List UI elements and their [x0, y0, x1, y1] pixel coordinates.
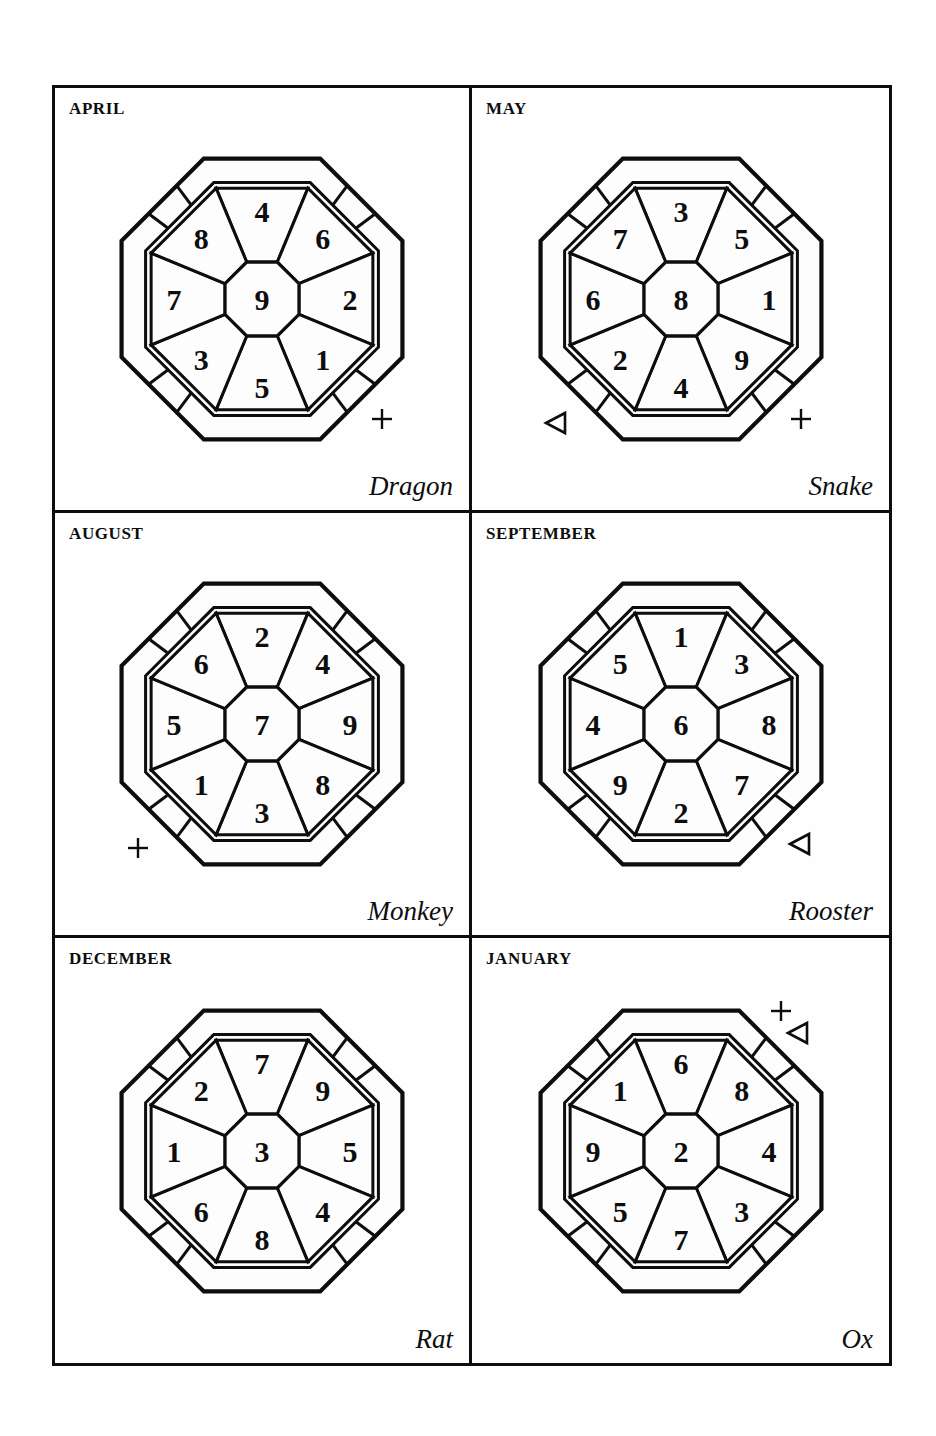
center-number: 2: [673, 1134, 688, 1167]
octagon-chart: 462153789: [102, 139, 422, 459]
sector-number-e: 9: [343, 708, 358, 741]
sector-number-ne: 3: [734, 647, 749, 680]
sector-number-s: 3: [255, 796, 270, 829]
sector-number-ne: 5: [734, 222, 749, 255]
animal-label: Dragon: [369, 471, 453, 502]
sector-number-n: 2: [255, 620, 270, 653]
sector-number-n: 7: [255, 1046, 270, 1079]
animal-label: Rooster: [789, 896, 873, 927]
sector-number-w: 5: [167, 708, 182, 741]
octagon-chart: 795486123: [102, 991, 422, 1311]
sector-number-s: 7: [673, 1222, 688, 1255]
sector-number-nw: 2: [194, 1073, 209, 1106]
sector-number-ne: 6: [315, 222, 330, 255]
octagon-chart: 249831567: [102, 564, 422, 884]
animal-label: Ox: [842, 1324, 873, 1355]
plus-marker: [372, 409, 392, 429]
sector-number-s: 8: [255, 1222, 270, 1255]
animal-label: Monkey: [368, 896, 453, 927]
sector-number-nw: 6: [194, 647, 209, 680]
sector-number-ne: 4: [315, 647, 330, 680]
panel-april-dragon: APRIL462153789Dragon: [55, 88, 472, 513]
plus-marker: [128, 838, 148, 858]
center-number: 8: [673, 283, 688, 316]
sector-number-sw: 6: [194, 1195, 209, 1228]
sector-number-nw: 1: [612, 1073, 627, 1106]
sector-number-se: 1: [315, 343, 330, 376]
sector-number-e: 1: [761, 283, 776, 316]
panel-may-snake: MAY351942678Snake: [472, 88, 889, 513]
sector-number-s: 5: [255, 371, 270, 404]
sector-number-se: 3: [734, 1195, 749, 1228]
octagon-chart: 138729456: [521, 564, 841, 884]
sector-number-nw: 5: [612, 647, 627, 680]
sector-number-s: 2: [673, 796, 688, 829]
sector-number-e: 4: [761, 1134, 776, 1167]
triangle-left-marker: [788, 1023, 807, 1043]
sector-number-sw: 1: [194, 768, 209, 801]
sector-number-se: 9: [734, 343, 749, 376]
sector-number-se: 8: [315, 768, 330, 801]
sector-number-e: 8: [761, 708, 776, 741]
panel-december-rat: DECEMBER795486123Rat: [55, 938, 472, 1363]
sector-number-w: 1: [167, 1134, 182, 1167]
octagon-chart: 351942678: [521, 139, 841, 459]
chart-grid: APRIL462153789DragonMAY351942678SnakeAUG…: [52, 85, 892, 1366]
sector-number-nw: 8: [194, 222, 209, 255]
plus-marker: [771, 1001, 791, 1021]
figure-area: 138729456: [472, 513, 889, 935]
sector-number-w: 4: [585, 708, 600, 741]
sector-number-ne: 9: [315, 1073, 330, 1106]
sector-number-w: 6: [585, 283, 600, 316]
sector-number-se: 4: [315, 1195, 330, 1228]
sector-number-n: 3: [673, 195, 688, 228]
sector-number-n: 4: [255, 195, 270, 228]
page-sheet: APRIL462153789DragonMAY351942678SnakeAUG…: [0, 0, 936, 1436]
center-number: 3: [255, 1134, 270, 1167]
sector-number-e: 2: [343, 283, 358, 316]
sector-number-nw: 7: [612, 222, 627, 255]
figure-area: 795486123: [55, 938, 469, 1363]
figure-area: 249831567: [55, 513, 469, 935]
sector-number-w: 9: [585, 1134, 600, 1167]
center-number: 9: [255, 283, 270, 316]
center-number: 6: [673, 708, 688, 741]
sector-number-e: 5: [343, 1134, 358, 1167]
sector-number-se: 7: [734, 768, 749, 801]
figure-area: 462153789: [55, 88, 469, 510]
sector-number-w: 7: [167, 283, 182, 316]
panel-august-monkey: AUGUST249831567Monkey: [55, 513, 472, 938]
sector-number-s: 4: [673, 371, 688, 404]
triangle-left-marker: [546, 413, 565, 433]
center-number: 7: [255, 708, 270, 741]
animal-label: Rat: [416, 1324, 454, 1355]
figure-area: 351942678: [472, 88, 889, 510]
sector-number-n: 1: [673, 620, 688, 653]
sector-number-sw: 5: [612, 1195, 627, 1228]
sector-number-ne: 8: [734, 1073, 749, 1106]
sector-number-n: 6: [673, 1046, 688, 1079]
plus-marker: [791, 409, 811, 429]
panel-january-ox: JANUARY684375912Ox: [472, 938, 889, 1363]
animal-label: Snake: [809, 471, 873, 502]
sector-number-sw: 9: [612, 768, 627, 801]
sector-number-sw: 3: [194, 343, 209, 376]
figure-area: 684375912: [472, 938, 889, 1363]
octagon-chart: 684375912: [521, 991, 841, 1311]
triangle-left-marker: [790, 834, 809, 854]
panel-september-rooster: SEPTEMBER138729456Rooster: [472, 513, 889, 938]
sector-number-sw: 2: [612, 343, 627, 376]
